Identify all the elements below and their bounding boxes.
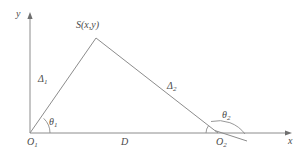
geometry-figure: y x S(x,y) Δ1 Δ2 θ1 θ2 D O1 O2 <box>0 0 304 159</box>
delta1-label: Δ1 <box>38 74 47 84</box>
delta2-label-sub: 2 <box>173 85 177 93</box>
delta1-label-base: Δ <box>38 73 44 84</box>
angle-arc-theta2-inner <box>206 126 209 133</box>
ray-delta2 <box>96 38 218 133</box>
baseline-d-label-base: D <box>121 136 128 147</box>
x-axis-label: x <box>288 136 292 146</box>
station-o1-label: O1 <box>27 137 38 147</box>
theta2-label-sub: 2 <box>227 114 231 122</box>
source-point-label: S(x,y) <box>76 20 99 30</box>
station-o2-label-sub: 2 <box>223 141 227 149</box>
baseline-d-label: D <box>121 137 128 147</box>
theta1-label-sub: 1 <box>54 121 58 129</box>
delta1-label-sub: 1 <box>44 78 48 86</box>
delta2-label-base: Δ <box>167 80 173 91</box>
y-axis <box>27 12 32 133</box>
station-o1-label-sub: 1 <box>34 141 38 149</box>
station-o2-label: O2 <box>216 137 227 147</box>
x-axis-label-text: x <box>288 135 292 146</box>
y-axis-label: y <box>16 9 20 19</box>
theta2-label: θ2 <box>222 110 230 120</box>
y-axis-label-text: y <box>16 8 20 19</box>
delta2-label: Δ2 <box>167 81 176 91</box>
ray-delta1 <box>30 38 96 133</box>
source-point-label-text: S(x,y) <box>76 19 99 30</box>
x-axis <box>30 130 292 135</box>
theta1-label: θ1 <box>49 117 57 127</box>
